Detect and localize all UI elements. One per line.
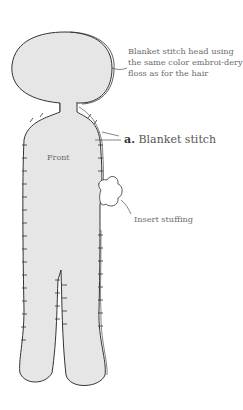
stuffing [99, 177, 122, 206]
blanket-stitch-label: a. Blanket stitch [124, 133, 216, 146]
doll-body [20, 103, 106, 386]
stitch-name: Blanket stitch [138, 133, 216, 146]
stuffing-note: Insert stuffing [134, 214, 193, 224]
doll-head [12, 32, 112, 113]
stitch-marker: a. [124, 133, 135, 146]
piece-label-front: Front [47, 153, 70, 162]
head-stitch-note: Blanket stitch head using the same color… [128, 46, 243, 79]
